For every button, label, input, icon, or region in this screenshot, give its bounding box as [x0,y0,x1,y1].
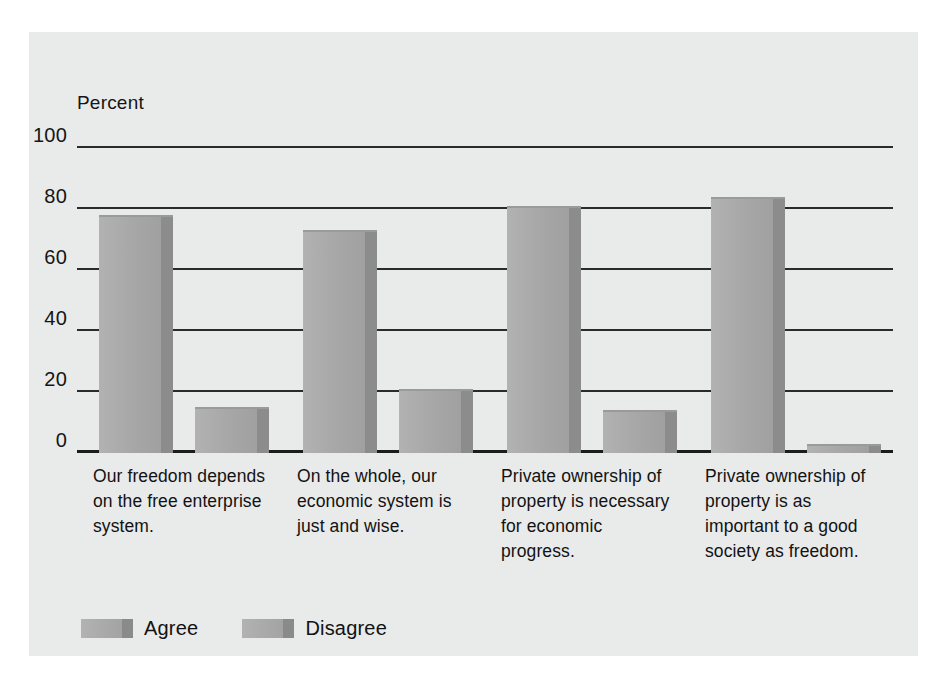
category-label-4: Private ownership of property is as impo… [705,464,881,564]
bar-disagree-4 [807,444,881,453]
y-tick-label-20: 20 [44,368,67,391]
y-tick-label-0: 0 [56,429,67,452]
category-label-1: Our freedom depends on the free enterpri… [93,464,269,539]
legend-item-disagree: Disagree [242,617,387,640]
y-tick-label-40: 40 [44,307,67,330]
y-tick-label-60: 60 [44,246,67,269]
chart-panel: Percent 020406080100 Our freedom depends… [29,32,918,656]
bar-agree-2 [303,230,377,453]
bar-agree-4 [711,197,785,453]
legend-label-disagree: Disagree [305,617,387,640]
y-tick-label-80: 80 [44,185,67,208]
bar-agree-1 [99,215,173,453]
category-label-2: On the whole, our economic system is jus… [297,464,473,539]
legend-item-agree: Agree [81,617,198,640]
bar-disagree-2 [399,389,473,453]
legend-swatch-disagree [242,619,294,638]
y-axis-title: Percent [77,92,144,114]
gridline-100 [77,146,893,148]
category-label-3: Private ownership of property is necessa… [501,464,677,564]
chart-legend: Agree Disagree [81,617,387,640]
y-tick-label-100: 100 [33,124,67,147]
bar-agree-3 [507,206,581,453]
legend-swatch-agree [81,619,133,638]
plot-area: 020406080100 [77,148,893,453]
category-labels: Our freedom depends on the free enterpri… [77,464,893,604]
bar-disagree-3 [603,410,677,453]
chart-figure: Percent 020406080100 Our freedom depends… [0,0,947,688]
legend-label-agree: Agree [144,617,198,640]
bar-disagree-1 [195,407,269,453]
